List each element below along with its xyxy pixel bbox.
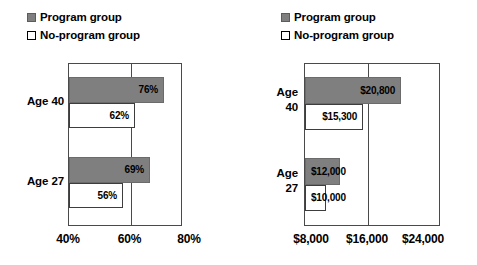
legend-left: Program group No-program group <box>27 12 140 48</box>
legend-item-program-group: Program group <box>281 12 394 23</box>
category-label-age-40: Age 40 <box>243 85 298 115</box>
legend-label-program-group: Program group <box>40 12 122 23</box>
bar-age27-no-program-group: 56% <box>69 183 123 208</box>
bar-value-age40-no-program-group: $15,300 <box>322 112 362 122</box>
xtick-label-8000: $8,000 <box>293 233 329 246</box>
legend-label-no-program-group: No-program group <box>40 30 140 41</box>
plot-area-earnings: $20,800 $15,300 $12,000 $10,000 <box>304 63 440 226</box>
bar-value-age27-no-program-group: $10,000 <box>311 193 346 203</box>
filled-square-icon <box>281 13 290 22</box>
bar-age40-no-program-group: 62% <box>69 103 135 128</box>
xtick-label-40-percent: 40% <box>56 233 79 246</box>
category-label-age-27: Age 27 <box>243 166 298 196</box>
category-label-age-40-line2: 40 <box>243 100 298 115</box>
bar-value-age27-no-program-group: 56% <box>98 191 122 201</box>
bar-age40-no-program-group: $15,300 <box>305 104 363 130</box>
bar-age27-no-program-group: $10,000 <box>305 185 326 211</box>
xtick-label-24000: $24,000 <box>402 233 444 246</box>
xtick-label-80-percent: 80% <box>177 233 200 246</box>
hollow-square-icon <box>281 31 290 40</box>
category-label-age-27-line1: Age <box>243 166 298 181</box>
bar-value-age40-no-program-group: 62% <box>110 111 134 121</box>
bar-value-age27-program-group: $12,000 <box>311 167 346 177</box>
category-label-age-27-line2: 27 <box>243 181 298 196</box>
bar-value-age40-program-group: $20,800 <box>360 86 400 96</box>
xtick-label-16000: $16,000 <box>346 233 388 246</box>
category-label-age-40: Age 40 <box>4 95 64 108</box>
bar-age27-program-group: $12,000 <box>305 158 340 185</box>
filled-square-icon <box>27 13 36 22</box>
plot-area-employment: 76% 62% 69% 56% <box>68 63 182 226</box>
legend-item-no-program-group: No-program group <box>27 30 140 41</box>
category-label-age-40-line1: Age <box>243 85 298 100</box>
legend-item-program-group: Program group <box>27 12 140 23</box>
bar-age27-program-group: 69% <box>69 157 150 183</box>
bar-age40-program-group: $20,800 <box>305 77 401 104</box>
earnings-chart-panel: Program group No-program group $20,800 $… <box>237 0 477 265</box>
legend-label-program-group: Program group <box>294 12 376 23</box>
category-label-age-27: Age 27 <box>4 175 64 188</box>
bar-value-age27-program-group: 69% <box>125 165 149 175</box>
bar-value-age40-program-group: 76% <box>139 85 163 95</box>
xtick-label-60-percent: 60% <box>118 233 141 246</box>
legend-right: Program group No-program group <box>281 12 394 48</box>
hollow-square-icon <box>27 31 36 40</box>
legend-label-no-program-group: No-program group <box>294 30 394 41</box>
bar-age40-program-group: 76% <box>69 77 164 103</box>
legend-item-no-program-group: No-program group <box>281 30 394 41</box>
employment-chart-panel: Program group No-program group 76% 62% 6… <box>0 0 237 265</box>
